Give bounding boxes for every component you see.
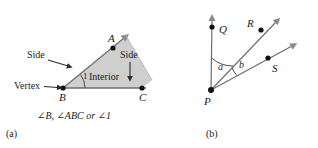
panel-a-graphics bbox=[44, 36, 152, 91]
point-p-label: P bbox=[204, 96, 211, 107]
side-left-callout-arrow bbox=[48, 60, 68, 66]
point-a-dot bbox=[110, 45, 115, 50]
point-c-dot bbox=[139, 85, 144, 90]
vertex-callout-label: Vertex bbox=[14, 81, 40, 91]
angle-arc-b2 bbox=[232, 68, 237, 76]
point-r-label: R bbox=[247, 18, 254, 29]
side-right-callout-label: Side bbox=[120, 50, 138, 60]
angle-number-1-label: 1 bbox=[83, 72, 88, 81]
point-b-label: B bbox=[59, 92, 66, 103]
point-a-label: A bbox=[108, 33, 115, 44]
angle-a-label: a bbox=[218, 62, 223, 72]
point-q-dot bbox=[209, 24, 214, 29]
figure-canvas bbox=[0, 0, 318, 148]
side-left-callout-label: Side bbox=[27, 50, 45, 60]
point-r-dot bbox=[258, 27, 263, 32]
ray-ps bbox=[211, 46, 292, 90]
vertex-callout-arrow bbox=[44, 87, 58, 88]
point-s-dot bbox=[265, 55, 270, 60]
angle-b-label: b bbox=[239, 60, 244, 70]
point-s-label: S bbox=[272, 63, 278, 74]
point-b-dot bbox=[60, 85, 65, 90]
interior-label: Interior bbox=[89, 72, 119, 82]
panel-b-label: (b) bbox=[206, 129, 218, 139]
figure-root: Vertex Side Side Interior 1 A B C ∠B, ∠A… bbox=[0, 0, 318, 148]
ray-pq bbox=[211, 20, 212, 90]
point-q-label: Q bbox=[219, 24, 227, 35]
point-c-label: C bbox=[139, 92, 146, 103]
panel-a-label: (a) bbox=[6, 129, 17, 139]
point-p-dot bbox=[208, 87, 214, 93]
panel-a-caption: ∠B, ∠ABC or ∠1 bbox=[37, 111, 111, 121]
